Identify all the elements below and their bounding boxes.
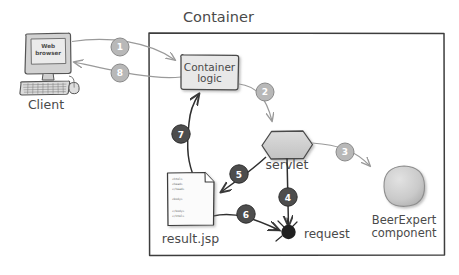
request-label: request: [304, 227, 350, 241]
svg-text:7: 7: [178, 130, 184, 140]
step-badge-8: 8: [111, 64, 129, 82]
svg-text:<head>: <head>: [172, 182, 183, 186]
step-badge-4: 4: [279, 188, 297, 206]
step-badge-5: 5: [230, 165, 248, 183]
svg-text:5: 5: [236, 170, 242, 180]
svg-text:3: 3: [342, 147, 348, 157]
svg-text:4: 4: [285, 193, 291, 203]
svg-text:8: 8: [117, 68, 123, 78]
svg-text:<html>: <html>: [172, 177, 183, 181]
svg-text:</html>: </html>: [172, 214, 184, 218]
svg-text:</body>: </body>: [172, 209, 184, 213]
container-logic-label-line1: Container: [184, 61, 236, 73]
request-dot-icon: [281, 225, 295, 239]
svg-text:2: 2: [262, 87, 268, 97]
client-screen-text-line1: Web: [41, 43, 55, 49]
step-badge-6: 6: [237, 205, 255, 223]
diagram-canvas: Container Web browser: [0, 0, 459, 275]
step-badge-2: 2: [256, 83, 274, 101]
client-label: Client: [28, 97, 64, 112]
svg-text:1: 1: [117, 42, 123, 52]
svg-text:6: 6: [243, 210, 249, 220]
step-badge-3: 3: [336, 143, 354, 161]
result-jsp-label: result.jsp: [162, 231, 219, 246]
request-node: [274, 218, 297, 241]
step-badge-1: 1: [111, 38, 129, 56]
step-badge-7: 7: [172, 125, 190, 143]
container-logic-label-line2: logic: [197, 72, 222, 84]
beerexpert-node: [384, 166, 425, 206]
client-screen-text-line2: browser: [35, 50, 61, 56]
svg-text:<body>: <body>: [172, 197, 183, 201]
container-label: Container: [183, 9, 254, 25]
diagram-svg: Container Web browser: [0, 0, 459, 275]
beerexpert-label-line2: component: [371, 226, 437, 240]
svg-text:</head>: </head>: [172, 187, 184, 191]
servlet-node: [262, 131, 313, 159]
client-node: Web browser Client: [20, 33, 79, 112]
